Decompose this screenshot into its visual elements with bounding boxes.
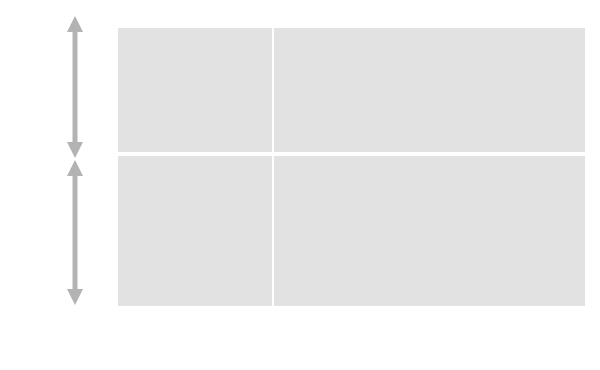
geological-period-band [118,308,585,330]
vegetation-section-arrow [66,160,84,305]
rainfall-regime-divider-bottom [272,156,274,306]
rainfall-regime-divider-top [272,28,274,152]
time-axis-ticks [0,331,600,347]
vegetation-plot [118,156,585,306]
precipitation-burning-plot [118,28,585,152]
precipitation-section-arrow [66,16,84,158]
figure-root [0,0,600,370]
